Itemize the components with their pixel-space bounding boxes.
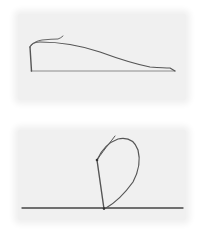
diagram-canvas (0, 0, 200, 231)
diagram-svg (0, 0, 200, 231)
bottom-stem (97, 160, 104, 209)
top-main-curve (30, 42, 175, 71)
bottom-loop (97, 138, 139, 208)
top-figure (30, 36, 175, 71)
bottom-figure (22, 136, 183, 210)
bottom-joint-dot (96, 159, 99, 162)
top-stem (30, 47, 32, 71)
bottom-tip-stroke (97, 136, 115, 160)
bottom-base-dot (103, 207, 106, 210)
top-secondary-stroke (30, 36, 63, 47)
